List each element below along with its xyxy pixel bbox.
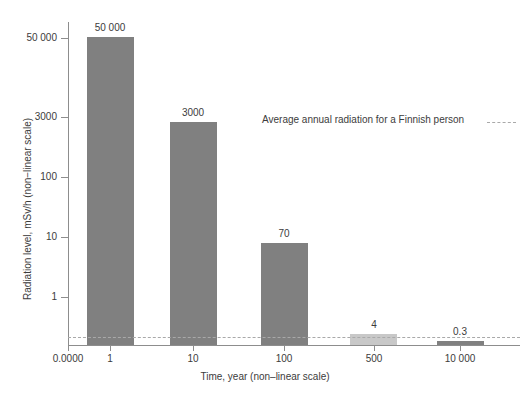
x-tick-mark <box>460 345 461 351</box>
y-tick-mark <box>61 117 68 118</box>
bar-value-label: 70 <box>278 228 289 239</box>
y-tick-mark <box>61 297 68 298</box>
y-axis-title: Radiation level, mSv/h (non−linear scale… <box>22 118 33 300</box>
bar-value-label: 3000 <box>182 107 204 118</box>
reference-line <box>68 337 520 338</box>
x-tick-mark <box>68 345 69 351</box>
x-tick-label: 10 000 <box>445 353 476 364</box>
x-axis-line <box>68 345 520 346</box>
y-tick-mark <box>61 177 68 178</box>
y-tick-mark <box>61 38 68 39</box>
x-tick-label: 500 <box>366 353 383 364</box>
x-tick-mark <box>284 345 285 351</box>
x-tick-mark <box>110 345 111 351</box>
x-tick-mark <box>374 345 375 351</box>
reference-annotation-dash <box>487 122 516 123</box>
bar-value-label: 4 <box>371 319 377 330</box>
y-tick-mark <box>61 237 68 238</box>
x-tick-label: 100 <box>276 353 293 364</box>
x-axis-title: Time, year (non–linear scale) <box>0 371 530 382</box>
x-tick-label: 10 <box>187 353 198 364</box>
x-tick-label: 1 <box>107 353 113 364</box>
bar <box>170 122 217 345</box>
bar <box>350 334 397 345</box>
bar <box>87 37 134 345</box>
x-tick-mark <box>193 345 194 351</box>
bar <box>437 341 484 345</box>
reference-line-annotation: Average annual radiation for a Finnish p… <box>262 114 464 125</box>
bar-value-label: 0.3 <box>453 326 467 337</box>
y-tick-label: 50 000 <box>0 32 57 43</box>
bar-value-label: 50 000 <box>95 22 126 33</box>
x-tick-label: 0.0000 <box>53 353 84 364</box>
bar <box>261 243 308 345</box>
radiation-bar-chart: 50 0003000100101 0.000011010050010 000 5… <box>0 0 530 397</box>
y-axis-line <box>68 22 69 345</box>
